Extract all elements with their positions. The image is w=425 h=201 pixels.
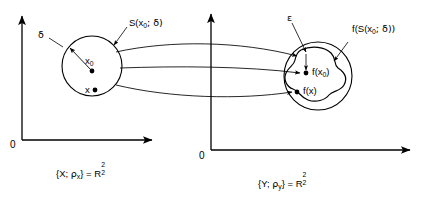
delta-label-leader [49, 38, 63, 47]
right-caption-codomain-indices: 22 [303, 176, 309, 187]
right-origin-label: 0 [199, 151, 205, 161]
mapping-curve-point [116, 85, 292, 97]
left-origin-label: 0 [10, 140, 16, 150]
right-axes [211, 14, 410, 150]
right-caption-codomain: R [296, 178, 303, 189]
right-caption-codomain-sup: 2 [303, 172, 307, 179]
point-fx-dot [295, 90, 300, 95]
point-fx-label: f(x) [303, 86, 317, 96]
delta-ball-label-sub: 0 [143, 22, 147, 29]
point-fx0-label-text: f(x [312, 66, 323, 77]
point-x-dot [93, 88, 98, 93]
mapping-curve-center [120, 67, 300, 73]
epsilon-label: ε [287, 13, 292, 23]
delta-ball-label: S(x0; δ) [129, 18, 163, 28]
left-caption-codomain: R [94, 168, 101, 179]
right-space-caption: {Y; ρy} = R22 [258, 176, 309, 189]
image-set-label-text: f(S(x [352, 23, 372, 34]
point-x0-label-sub: 0 [90, 60, 94, 67]
right-caption-metric-sub: y [278, 183, 281, 190]
image-set-label-tail: ; δ)) [376, 23, 395, 34]
point-x0-dot [90, 69, 95, 74]
image-set-label-leader [334, 42, 348, 61]
delta-ball-label-leader [114, 27, 127, 45]
left-caption-metric: ρ [71, 168, 77, 179]
mapping-curve-set [116, 44, 297, 56]
image-set-label-sub: 0 [372, 28, 376, 35]
left-caption-equals: = [83, 168, 94, 179]
left-caption-codomain-sub: 2 [101, 170, 105, 177]
mapping-curves [116, 44, 300, 97]
point-x-label: x [85, 85, 90, 95]
point-fx0-label-tail: ) [326, 66, 329, 77]
left-caption-codomain-sup: 2 [101, 162, 105, 169]
left-caption-metric-sub: x [77, 173, 80, 180]
left-caption-codomain-indices: 22 [101, 166, 107, 177]
delta-label: δ [38, 30, 44, 40]
delta-ball-label-text: S(x [129, 17, 143, 28]
delta-ball-label-tail: ; δ) [147, 17, 163, 28]
point-fx0-label: f(x0) [312, 67, 330, 77]
right-caption-equals: = [285, 178, 296, 189]
point-x0-label: x0 [85, 56, 94, 66]
point-fx0-label-sub: 0 [323, 71, 327, 78]
right-caption-codomain-sub: 2 [303, 180, 307, 187]
figure-canvas: S(x0; δ) δ x0 x 0 {X; ρx} = R22 ε f(S(x0… [0, 0, 425, 201]
point-fx0-dot [304, 71, 309, 76]
left-space-caption: {X; ρx} = R22 [56, 166, 107, 179]
image-set-label: f(S(x0; δ)) [352, 24, 395, 34]
